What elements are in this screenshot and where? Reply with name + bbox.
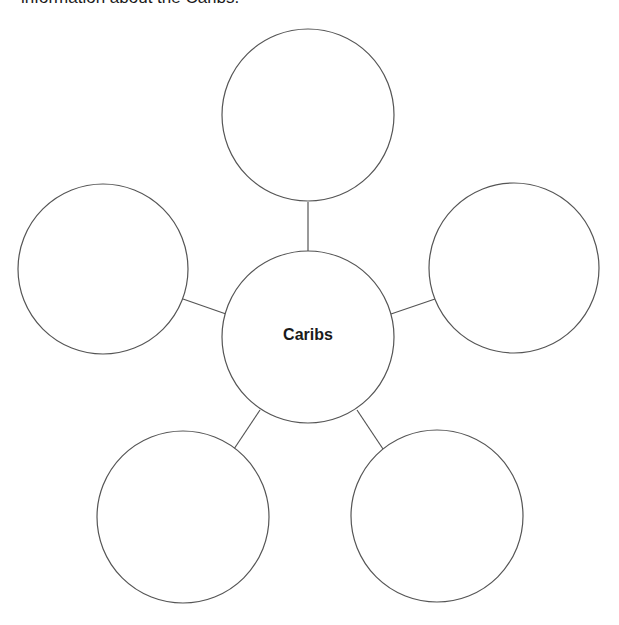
center-label: Caribs	[222, 326, 394, 344]
connector-bottom-right	[357, 410, 383, 449]
outer-circle-left	[18, 184, 188, 354]
connector-left	[183, 299, 226, 314]
connector-right	[391, 299, 435, 314]
connector-bottom-left	[234, 410, 260, 449]
outer-circle-bottom-left	[97, 431, 269, 603]
outer-circle-right	[429, 183, 599, 353]
outer-circle-top	[222, 29, 394, 201]
spider-web-diagram	[0, 0, 619, 625]
outer-circle-bottom-right	[351, 430, 523, 602]
